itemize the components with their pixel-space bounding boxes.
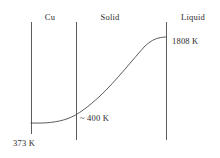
temperature-label-373k: 373 K: [13, 138, 35, 148]
temperature-label-400k: ~ 400 K: [80, 113, 109, 123]
diagram-canvas: [0, 0, 220, 158]
region-label-liquid: Liquid: [181, 12, 205, 22]
phase-diagram-figure: Cu Solid Liquid 1808 K ~ 400 K 373 K: [0, 0, 220, 158]
temperature-curve: [31, 37, 166, 123]
region-label-cu: Cu: [45, 12, 55, 22]
temperature-profile-curve: [31, 37, 166, 123]
region-label-solid: Solid: [101, 12, 120, 22]
temperature-label-1808k: 1808 K: [172, 36, 198, 46]
